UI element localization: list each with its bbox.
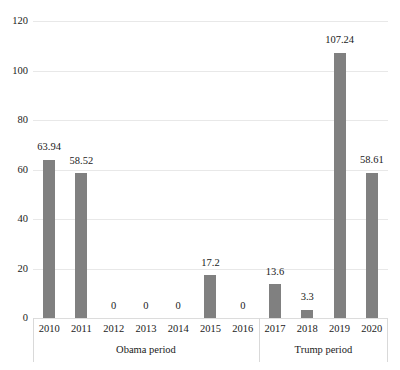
x-axis-label-2015: 2015 bbox=[194, 324, 226, 335]
bar-2010[interactable] bbox=[43, 160, 55, 318]
group-label-trump-period: Trump period bbox=[259, 345, 388, 356]
bar-2015[interactable] bbox=[204, 275, 216, 318]
x-axis-label-2013: 2013 bbox=[130, 324, 162, 335]
y-axis-tick-20: 20 bbox=[18, 264, 29, 275]
bar-value-2014: 0 bbox=[176, 301, 181, 312]
bar-slot-2020: 58.61 bbox=[356, 21, 388, 318]
bar-slot-2014: 0 bbox=[162, 21, 194, 318]
x-axis-label-2012: 2012 bbox=[98, 324, 130, 335]
bar-value-2011: 58.52 bbox=[70, 156, 94, 167]
y-axis-tick-80: 80 bbox=[18, 115, 29, 126]
y-axis-tick-60: 60 bbox=[18, 165, 29, 176]
bar-value-2020: 58.61 bbox=[360, 155, 384, 166]
bar-value-2016: 0 bbox=[240, 301, 245, 312]
bar-2018[interactable] bbox=[301, 310, 313, 318]
bar-2017[interactable] bbox=[269, 284, 281, 318]
bar-chart: 120 100 80 60 40 20 0 63.94 58.52 0 0 0 … bbox=[0, 0, 400, 370]
x-axis-label-2014: 2014 bbox=[162, 324, 194, 335]
x-axis-label-2011: 2011 bbox=[65, 324, 97, 335]
x-axis-label-2016: 2016 bbox=[227, 324, 259, 335]
bar-slot-2016: 0 bbox=[227, 21, 259, 318]
x-axis-label-2020: 2020 bbox=[356, 324, 388, 335]
y-axis-tick-0: 0 bbox=[23, 313, 28, 324]
group-label-obama-period: Obama period bbox=[33, 345, 259, 356]
bar-value-2015: 17.2 bbox=[201, 258, 219, 269]
bar-2020[interactable] bbox=[366, 173, 378, 318]
bar-slot-2017: 13.6 bbox=[259, 21, 291, 318]
bar-2019[interactable] bbox=[334, 53, 346, 318]
bar-slot-2015: 17.2 bbox=[194, 21, 226, 318]
bar-value-2017: 13.6 bbox=[266, 267, 284, 278]
category-axis: 2010 2011 2012 2013 2014 2015 2016 2017 … bbox=[33, 318, 388, 370]
bar-value-2012: 0 bbox=[111, 301, 116, 312]
bar-slot-2013: 0 bbox=[130, 21, 162, 318]
bar-2011[interactable] bbox=[75, 173, 87, 318]
x-axis-label-2019: 2019 bbox=[323, 324, 355, 335]
bar-slot-2012: 0 bbox=[98, 21, 130, 318]
x-axis-label-2017: 2017 bbox=[259, 324, 291, 335]
bar-slot-2011: 58.52 bbox=[65, 21, 97, 318]
bar-slot-2019: 107.24 bbox=[323, 21, 355, 318]
bar-slot-2018: 3.3 bbox=[291, 21, 323, 318]
bar-value-2010: 63.94 bbox=[37, 142, 61, 153]
x-axis-label-2018: 2018 bbox=[291, 324, 323, 335]
bar-slot-2010: 63.94 bbox=[33, 21, 65, 318]
bar-value-2019: 107.24 bbox=[325, 35, 354, 46]
bars-layer: 63.94 58.52 0 0 0 17.2 0 13.6 bbox=[33, 21, 388, 318]
x-axis-label-2010: 2010 bbox=[33, 324, 65, 335]
bar-value-2018: 3.3 bbox=[301, 292, 314, 303]
bar-value-2013: 0 bbox=[143, 301, 148, 312]
y-axis-tick-100: 100 bbox=[12, 66, 28, 77]
y-axis-tick-40: 40 bbox=[18, 214, 29, 225]
y-axis-tick-120: 120 bbox=[12, 16, 28, 27]
